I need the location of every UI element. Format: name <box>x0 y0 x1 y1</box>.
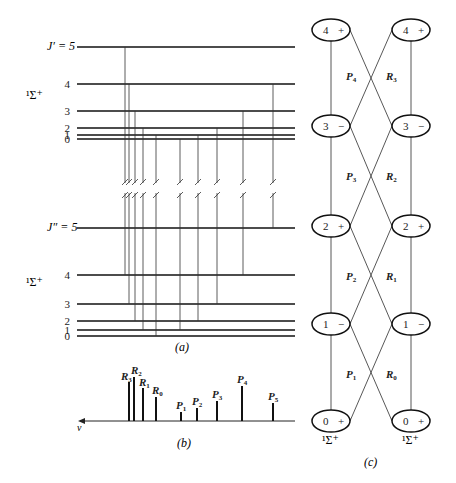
branch-label: R0 <box>385 368 397 382</box>
level-parity-label: + <box>338 220 344 232</box>
right-level-ellipse <box>392 115 430 137</box>
level-j-label: 3 <box>403 120 409 132</box>
branch-label: P1 <box>346 368 357 382</box>
right-level-ellipse <box>392 215 430 237</box>
upper-level-label: 0 <box>65 133 71 145</box>
upper-level-label: 3 <box>65 105 71 117</box>
branch-label: R3 <box>385 70 397 84</box>
spectral-line-label: R0 <box>151 384 163 398</box>
level-j-label: 2 <box>323 220 329 232</box>
branch-label: P4 <box>346 70 357 84</box>
level-j-label: 0 <box>403 415 409 427</box>
upper-level-label: 4 <box>65 78 71 90</box>
lower-level-label: 4 <box>65 269 71 281</box>
spectral-line-label: R1 <box>138 376 150 390</box>
spectral-line-label: P5 <box>268 390 279 404</box>
branch-label: R1 <box>385 270 397 284</box>
level-parity-label: + <box>418 24 424 36</box>
left-level-ellipse <box>312 313 350 335</box>
level-j-label: 1 <box>403 318 409 330</box>
level-parity-label: + <box>338 24 344 36</box>
level-j-label: 3 <box>323 120 329 132</box>
level-parity-label: − <box>338 318 344 330</box>
level-parity-label: − <box>338 120 344 132</box>
lower-level-label: 0 <box>65 330 71 342</box>
level-j-label: 0 <box>323 415 329 427</box>
level-parity-label: − <box>418 120 424 132</box>
branch-label: R2 <box>385 170 397 184</box>
level-j-label: 4 <box>323 24 329 36</box>
right-level-ellipse <box>392 313 430 335</box>
spectral-line-label: P4 <box>237 373 248 387</box>
spectroscopy-figure: 4321043210R3R2R1R0P1P2P3P4P54+4+3−3−2+2+… <box>0 0 456 483</box>
spectral-line-label: P2 <box>192 395 203 409</box>
lower-level-label: 3 <box>65 298 71 310</box>
left-level-ellipse <box>312 215 350 237</box>
level-parity-label: + <box>338 415 344 427</box>
level-j-label: 2 <box>403 220 409 232</box>
level-parity-label: + <box>418 220 424 232</box>
level-j-label: 4 <box>403 24 409 36</box>
level-j-label: 1 <box>323 318 329 330</box>
right-level-ellipse <box>392 19 430 41</box>
spectral-line-label: P3 <box>212 388 223 402</box>
left-level-ellipse <box>312 19 350 41</box>
level-parity-label: + <box>418 415 424 427</box>
branch-label: P2 <box>346 270 357 284</box>
left-level-ellipse <box>312 115 350 137</box>
arrow-left-icon <box>78 418 85 424</box>
branch-label: P3 <box>346 170 357 184</box>
spectral-line-label: P1 <box>176 399 187 413</box>
right-level-ellipse <box>392 410 430 432</box>
level-parity-label: − <box>418 318 424 330</box>
left-level-ellipse <box>312 410 350 432</box>
